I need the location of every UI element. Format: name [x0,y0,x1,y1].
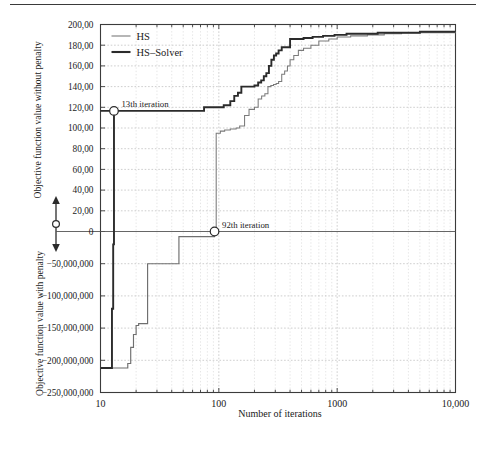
x-tick-label: 10 [96,398,106,409]
data-series [101,32,456,368]
y-tick-label: 200,00 [68,20,94,30]
annotation-13th-iteration-label: 13th iteration [121,99,169,109]
y-tick-label: −150,000,000 [42,323,94,333]
y-tick-label: −200,000,000 [42,356,94,366]
y-tick-label: 40,00 [73,185,94,195]
chart-plot-area: 200,00180,00160,00140,00120,00100,0080,0… [0,0,489,452]
legend-label: HS [137,31,151,42]
y-tick-label: −100,000,000 [42,291,94,301]
figure-container: Objective function value without penalty… [0,0,489,452]
chart-legend: HSHS–Solver [112,31,184,58]
grid-minor [136,25,450,393]
legend-label: HS–Solver [137,47,184,58]
x-axis-tick-labels: 10100100010,000 [96,398,470,409]
series-hs-solver-penalty-branch [101,111,114,368]
chart-annotations: 13th iteration92th iteration [110,99,270,236]
x-tick-label: 1000 [327,398,347,409]
y-axis-tick-labels: 200,00180,00160,00140,00120,00100,0080,0… [42,20,94,398]
x-tick-label: 100 [211,398,226,409]
axis-tickmarks [101,25,456,393]
annotation-92th-iteration-marker [210,227,219,236]
y-tick-label: 0 [89,227,94,237]
annotation-92th-iteration-label: 92th iteration [222,220,270,230]
annotation-13th-iteration-marker [110,107,119,116]
y-tick-label: −50,000,000 [46,259,93,269]
y-tick-label: 80,00 [73,144,94,154]
grid-major [101,25,456,393]
y-tick-label: 180,00 [68,41,94,51]
y-tick-label: 20,00 [73,206,94,216]
plot-frame [56,25,456,393]
x-tick-label: 10,000 [442,398,470,409]
y-tick-label: 160,00 [68,61,94,71]
series-hs [215,32,456,232]
y-tick-label: −250,000,000 [42,388,94,398]
series-hs-penalty-branch [101,232,215,369]
y-tick-label: 140,00 [68,82,94,92]
y-tick-label: 100,00 [68,123,94,133]
y-tick-label: 120,00 [68,103,94,113]
y-tick-label: 60,00 [73,165,94,175]
